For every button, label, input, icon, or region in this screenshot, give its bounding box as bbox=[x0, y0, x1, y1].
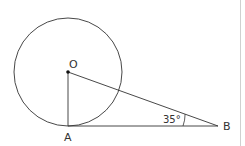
label-o: O bbox=[69, 58, 78, 71]
label-b: B bbox=[223, 120, 231, 133]
segment-ob bbox=[68, 72, 218, 126]
angle-arc-b bbox=[183, 114, 185, 126]
geometry-diagram: O A B 35° bbox=[0, 0, 245, 146]
label-a: A bbox=[64, 131, 72, 144]
angle-label: 35° bbox=[163, 114, 181, 125]
